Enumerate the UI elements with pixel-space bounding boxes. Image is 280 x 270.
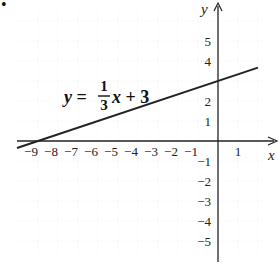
y-tick-label: 5	[205, 34, 212, 49]
y-axis-label: y	[199, 1, 208, 17]
y-tick-label: −5	[197, 234, 211, 249]
y-tick-label: 4	[205, 54, 212, 69]
x-tick-label: −8	[44, 144, 58, 159]
x-tick-label: −2	[164, 144, 178, 159]
x-tick-label: −7	[64, 144, 78, 159]
equation-lhs: y =	[62, 87, 87, 107]
y-tick-label: −2	[197, 174, 211, 189]
y-tick-label: −1	[197, 154, 211, 169]
x-tick-label: −3	[144, 144, 158, 159]
graph-figure: • yx−9−8−7−6−5−4−3−2−115421−1−2−3−4−5y =…	[0, 0, 280, 270]
x-tick-label: −9	[24, 144, 38, 159]
y-tick-label: −3	[197, 194, 211, 209]
equation-rhs: x + 3	[111, 87, 149, 107]
y-tick-label: 2	[205, 94, 212, 109]
equation-numerator: 1	[100, 78, 108, 94]
x-tick-label: −4	[124, 144, 138, 159]
x-tick-label: −1	[184, 144, 198, 159]
x-tick-label: −6	[84, 144, 98, 159]
y-tick-label: 1	[205, 114, 212, 129]
y-tick-label: −4	[197, 214, 211, 229]
function-line	[17, 68, 258, 148]
equation-denominator: 3	[100, 97, 108, 113]
x-axis-label: x	[267, 147, 275, 163]
x-tick-label: 1	[235, 144, 242, 159]
coordinate-plane: yx−9−8−7−6−5−4−3−2−115421−1−2−3−4−5y =13…	[0, 0, 280, 270]
x-tick-label: −5	[104, 144, 118, 159]
